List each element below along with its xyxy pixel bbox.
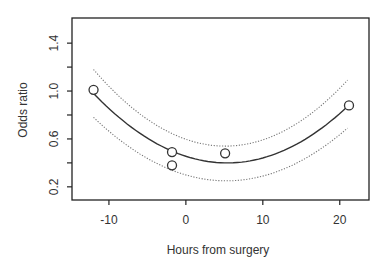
plot-border <box>72 18 369 200</box>
data-point <box>168 161 177 170</box>
curves <box>94 70 348 181</box>
x-tick-label: -10 <box>100 213 118 227</box>
odds-ratio-chart: 0.20.61.01.4 -1001020 Odds ratio Hours f… <box>0 0 384 267</box>
y-axis-title: Odds ratio <box>16 82 30 138</box>
data-point <box>344 101 353 110</box>
y-axis: 0.20.61.01.4 <box>47 34 72 195</box>
y-tick-label: 1.4 <box>47 34 61 51</box>
y-tick-label: 0.2 <box>47 178 61 195</box>
plot-frame <box>72 18 369 200</box>
x-tick-label: 20 <box>333 213 347 227</box>
x-tick-label: 10 <box>256 213 270 227</box>
y-tick-label: 1.0 <box>47 82 61 99</box>
x-axis: -1001020 <box>100 200 346 227</box>
data-points <box>89 85 353 169</box>
x-axis-title: Hours from surgery <box>167 243 270 257</box>
upper_ci-curve <box>94 70 348 147</box>
data-point <box>168 148 177 157</box>
data-point <box>221 149 230 158</box>
data-point <box>89 85 98 94</box>
x-tick-label: 0 <box>183 213 190 227</box>
y-tick-label: 0.6 <box>47 130 61 147</box>
